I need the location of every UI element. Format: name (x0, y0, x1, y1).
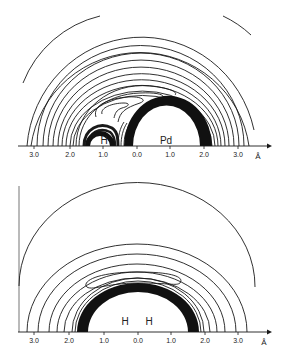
contour-line (223, 16, 251, 35)
axis-arrow-icon (267, 144, 272, 149)
atom-label-pd: Pd (160, 135, 172, 146)
contour-line (73, 95, 212, 146)
contour-line (38, 254, 236, 332)
x-tick-label: 0.0 (133, 337, 143, 344)
atom-label-h: H (100, 135, 107, 146)
contour-figure: 3.0 2.0 1.0 0.0 1.0 2.0 3.0 Å H Pd (0, 0, 287, 361)
x-tick-label: 1.0 (166, 337, 176, 344)
x-tick-label: 2.0 (64, 337, 74, 344)
x-tick-label: 3.0 (29, 151, 39, 158)
bottom-panel (19, 182, 255, 332)
contour-line (49, 264, 225, 332)
axis-unit-label: Å (261, 338, 267, 347)
x-tick-label: 2.0 (200, 337, 210, 344)
x-tick-label: 3.0 (29, 337, 39, 344)
axis-arrow-icon (267, 330, 272, 335)
x-tick-label: 2.0 (65, 151, 75, 158)
x-tick-label: 1.0 (165, 151, 175, 158)
top-panel (23, 16, 254, 146)
x-tick-label: 1.0 (99, 337, 109, 344)
x-tick-label: 2.0 (199, 151, 209, 158)
atom-label-h-right: H (145, 316, 152, 327)
bottom-x-axis: 3.0 2.0 1.0 0.0 1.0 2.0 3.0 Å (18, 330, 272, 348)
x-tick-label: 3.0 (233, 337, 243, 344)
contour-line (19, 182, 255, 287)
contour-line (23, 16, 100, 83)
top-x-axis: 3.0 2.0 1.0 0.0 1.0 2.0 3.0 Å (18, 144, 272, 162)
x-tick-label: 0.0 (132, 151, 142, 158)
axis-unit-label: Å (255, 152, 261, 161)
x-tick-label: 3.0 (233, 151, 243, 158)
x-tick-label: 1.0 (98, 151, 108, 158)
atom-label-h-left: H (121, 316, 128, 327)
